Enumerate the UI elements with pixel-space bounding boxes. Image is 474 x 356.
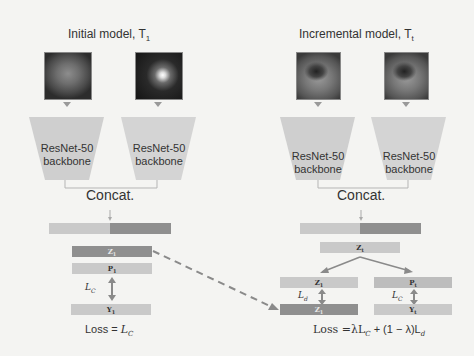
concat-feature-bar-dark [110, 223, 171, 234]
y1-label-bar: Y1 [71, 304, 151, 315]
backbone-label: ResNet-50 backbone [371, 150, 447, 176]
backbone-line2: backbone [280, 163, 356, 176]
right-panel-title: Incremental model, Tt [299, 27, 414, 43]
lc-right-sub: C [398, 295, 403, 302]
left-title-text: Initial model, T [68, 27, 146, 41]
right-loss-formula: Loss =λLC + (1 − λ)Ld [313, 323, 425, 338]
yt-label-bar: Yt [374, 304, 452, 315]
concat-feature-bar-light [300, 223, 360, 234]
zt-embedding-bar: Zt [320, 242, 400, 253]
ld-sub: d [304, 295, 308, 302]
backbone-line2: backbone [371, 163, 447, 176]
lc-sub: C [91, 287, 96, 294]
left-panel-title: Initial model, T1 [68, 27, 150, 43]
zt-sub: t [361, 247, 363, 253]
loss-prefix: Loss = [85, 323, 121, 335]
loss-sub2: d [421, 330, 425, 338]
concat-label: Concat. [86, 187, 134, 203]
left-loss-formula: Loss = LC [85, 323, 133, 338]
left-title-sub: 1 [146, 34, 150, 43]
z-sub: 1 [113, 251, 116, 257]
distillation-dashed-arrow [153, 251, 272, 307]
z1-target-bar: Z1 [280, 304, 358, 315]
backbone-line1: ResNet-50 [29, 142, 105, 155]
down-arrow-icon [314, 102, 322, 107]
concat-feature-bar-dark [360, 223, 421, 234]
down-arrow-icon [154, 102, 162, 107]
ld-label: Ld [298, 290, 308, 302]
lc-right-label: LC [392, 290, 403, 302]
branch-arrow-to-pt [360, 257, 410, 271]
loss-text-a: Loss =λL [313, 323, 365, 336]
p1-prediction-bar: P1 [72, 263, 152, 274]
pt-sub: t [414, 282, 416, 288]
z1-pred-sub: 1 [320, 282, 323, 288]
pt-prediction-bar: Pt [374, 277, 452, 288]
down-arrow-icon [63, 102, 71, 107]
backbone-line1: ResNet-50 [371, 150, 447, 163]
backbone-line1: ResNet-50 [121, 142, 197, 155]
backbone-line2: backbone [121, 155, 197, 168]
backbone-line2: backbone [29, 155, 105, 168]
down-arrow-icon [402, 102, 410, 107]
right-title-text: Incremental model, T [299, 27, 412, 41]
backbone-label: ResNet-50 backbone [29, 142, 105, 168]
backbone-line1: ResNet-50 [280, 150, 356, 163]
z1-predicted-bar: Z1 [280, 277, 358, 288]
y-sub: 1 [112, 309, 115, 315]
concat-label: Concat. [337, 187, 385, 203]
loss-term-sub: C [128, 330, 133, 338]
loss-text-b: + (1 − λ)L [371, 323, 421, 335]
pet-scan-image [135, 52, 183, 100]
backbone-label: ResNet-50 backbone [121, 142, 197, 168]
loss-term: L [121, 323, 128, 336]
yt-sub: t [414, 309, 416, 315]
backbone-label: ResNet-50 backbone [280, 150, 356, 176]
p-sub: 1 [113, 268, 116, 274]
right-title-sub: t [412, 34, 414, 43]
concat-feature-bar-light [49, 223, 110, 234]
z1-embedding-bar: Z1 [72, 246, 152, 257]
ct-scan-image [384, 52, 429, 100]
lc-label: LC [85, 282, 96, 294]
z1-target-sub: 1 [320, 309, 323, 315]
ct-scan-image [296, 52, 341, 100]
ct-scan-image [44, 52, 92, 100]
